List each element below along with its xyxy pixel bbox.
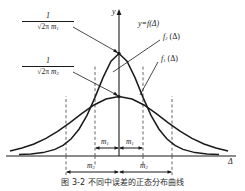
dimension-label-outer-right: m2 (140, 162, 148, 171)
f-subscript: 1 (163, 58, 165, 63)
sqrt-two-pi: √2π (37, 22, 49, 31)
m-subscript: 2 (92, 165, 94, 170)
leader-arrowhead-peak-f1 (113, 49, 119, 54)
dimension-arrow-inner-left-start (95, 146, 100, 150)
delta-arg: (Δ) (169, 32, 179, 41)
dimension-arrow-inner-left-end (115, 146, 120, 150)
curve-label-f2: f2(Δ) (163, 33, 180, 42)
fraction-numerator: 1 (22, 12, 74, 20)
dimension-label-inner-left: m1 (101, 138, 109, 147)
m-subscript: 1 (131, 141, 133, 146)
peak-value-label-f1: 1 √2πm1 (22, 12, 74, 31)
dimension-arrow-inner-right-end (139, 146, 144, 150)
curve-label-main: y=f(Δ) (138, 20, 159, 28)
leader-line-f2 (113, 40, 160, 72)
dimension-arrow-outer-right-start (119, 170, 124, 174)
m-subscript: 1 (106, 141, 108, 146)
y-axis-label: y (112, 8, 116, 16)
delta-arg: (Δ) (167, 54, 177, 63)
m-subscript: 1 (56, 26, 58, 31)
dimension-arrow-outer-left-start (66, 170, 71, 174)
fraction-denominator: √2πm2 (22, 67, 74, 76)
peak-value-label-f2: 1 √2πm2 (22, 57, 74, 76)
leader-arrowhead-peak-f2 (113, 92, 119, 97)
f-subscript: 2 (165, 36, 167, 41)
sqrt-two-pi: √2π (37, 67, 49, 76)
dimension-label-inner-right: m1 (126, 138, 134, 147)
curve-label-f1: f1(Δ) (161, 55, 178, 64)
fraction-numerator: 1 (22, 57, 74, 65)
dimension-arrow-outer-right-end (168, 170, 173, 174)
dimension-arrow-outer-left-end (115, 170, 120, 174)
dimension-arrow-inner-right-start (119, 146, 124, 150)
x-axis-label: Δ (228, 158, 233, 166)
figure-caption: 图 3-2 不同中误差的正态分布曲线 (0, 176, 245, 191)
leader-line-peak-f1 (73, 27, 117, 52)
leader-line-peak-f2 (73, 72, 117, 95)
m-subscript: 2 (145, 165, 147, 170)
fraction-denominator: √2πm1 (22, 22, 74, 31)
dimension-label-outer-left: m2 (87, 162, 95, 171)
m-subscript: 2 (56, 71, 58, 76)
y-axis-arrowhead (117, 9, 122, 15)
